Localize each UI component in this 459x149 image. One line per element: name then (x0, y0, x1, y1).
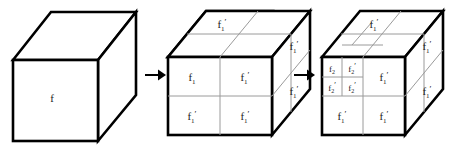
stage-2-cube: f1 f1′ f1′ f1′ f1′ f1′ f1′ (168, 11, 310, 135)
stage-1-front-label: f (50, 92, 54, 104)
figure-canvas: f f1 (0, 0, 459, 149)
arrow-1 (145, 70, 166, 81)
stage-1-front-face (13, 60, 98, 141)
cube-subdivision-figure: f f1 (0, 0, 459, 149)
stage-3-cube: f2 f2′ f2′ f2′ f1′ f1′ f1′ f1′ f1′ f1′ (322, 11, 443, 135)
stage-1-cube: f (13, 12, 136, 141)
arrow-1-head (158, 70, 166, 81)
